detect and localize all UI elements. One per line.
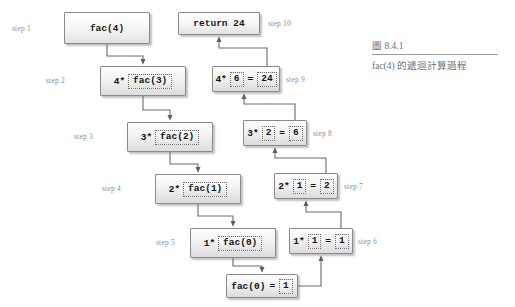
node-step4: 2* fac(1) [155, 174, 241, 204]
node-result-step6: 1 [335, 234, 349, 249]
step-label-4: step 4 [102, 184, 121, 193]
edge-step3-step4 [170, 152, 198, 170]
node-content: 4* 6 = 24 [210, 72, 281, 87]
node-prefix-step9: 4* [215, 74, 226, 85]
step-label-3: step 3 [74, 132, 93, 141]
node-inner-step8: 2 [262, 126, 276, 141]
node-inner-step9: 6 [230, 72, 244, 87]
node-step8: 3* 2 = 6 [243, 120, 307, 146]
node-result-step9: 24 [257, 72, 276, 87]
node-prefix-step3: 3* [141, 132, 152, 143]
edge-step8-step9 [244, 96, 295, 120]
node-result-base: 1 [279, 279, 293, 294]
edge-step2-step3 [143, 96, 170, 118]
node-equals-step9: = [248, 74, 254, 85]
node-label-step1: fac(4) [90, 23, 124, 34]
edge-step5-base [233, 258, 262, 270]
node-content: 1* fac(0) [199, 236, 268, 251]
node-content: fac(4) [85, 23, 129, 34]
node-equals-base: = [269, 281, 275, 292]
node-content: 3* 2 = 6 [242, 126, 308, 141]
node-inner-step6: 1 [308, 234, 322, 249]
node-label-step10: return 24 [193, 18, 244, 29]
node-step9: 4* 6 = 24 [212, 66, 280, 92]
edge-step1-step2 [107, 44, 143, 62]
node-step6: 1* 1 = 1 [289, 228, 353, 254]
node-result-step8: 6 [289, 126, 303, 141]
node-prefix-step2: 4* [114, 76, 125, 87]
node-step1: fac(4) [64, 12, 150, 44]
node-prefix-step6: 1* [293, 236, 304, 247]
step-label-2: step 2 [46, 76, 65, 85]
node-content: 3* fac(2) [136, 130, 205, 145]
node-inner-step5: fac(0) [218, 236, 262, 251]
node-equals-step7: = [310, 181, 316, 192]
node-prefix-step8: 3* [247, 128, 258, 139]
node-base-case: fac(0) = 1 [226, 274, 298, 298]
node-inner-step7: 1 [293, 179, 307, 194]
node-step5: 1* fac(0) [190, 228, 276, 258]
node-content: 2* 1 = 2 [273, 179, 339, 194]
edge-step6-step7 [306, 203, 341, 228]
figure-container: fac(4) step 1 4* fac(3) step 2 3* fac(2)… [0, 0, 515, 307]
node-inner-step3: fac(2) [155, 130, 199, 145]
node-prefix-step5: 1* [204, 238, 215, 249]
figure-number: 圖 8.4.1 [372, 38, 500, 54]
node-equals-step8: = [279, 128, 285, 139]
node-content: 2* fac(1) [164, 182, 233, 197]
node-equals-step6: = [325, 236, 331, 247]
node-step3: 3* fac(2) [127, 122, 213, 152]
node-content: return 24 [188, 18, 249, 29]
step-label-10: step 10 [268, 19, 291, 28]
node-step7: 2* 1 = 2 [274, 173, 338, 199]
node-content: 1* 1 = 1 [288, 234, 354, 249]
edge-step9-step10 [219, 39, 267, 66]
edge-step4-step5 [198, 204, 233, 224]
node-inner-step4: fac(1) [183, 182, 227, 197]
step-label-7: step 7 [344, 182, 363, 191]
edge-base-step6 [298, 258, 321, 286]
node-content: fac(0) = 1 [226, 279, 298, 294]
node-result-step7: 2 [320, 179, 334, 194]
node-prefix-base: fac(0) [231, 281, 265, 292]
figure-caption: 圖 8.4.1 fac(4) 的遞迴計算過程 [372, 38, 500, 72]
node-inner-step2: fac(3) [128, 74, 172, 89]
step-label-1: step 1 [12, 24, 31, 33]
figure-caption-text: fac(4) 的遞迴計算過程 [372, 55, 500, 72]
step-label-9: step 9 [286, 75, 305, 84]
step-label-8: step 8 [313, 129, 332, 138]
step-label-6: step 6 [358, 237, 377, 246]
node-content: 4* fac(3) [109, 74, 178, 89]
node-prefix-step4: 2* [169, 184, 180, 195]
step-label-5: step 5 [156, 238, 175, 247]
edge-step7-step8 [275, 150, 326, 173]
node-step2: 4* fac(3) [100, 66, 186, 96]
node-step10: return 24 [178, 12, 260, 35]
node-prefix-step7: 2* [278, 181, 289, 192]
